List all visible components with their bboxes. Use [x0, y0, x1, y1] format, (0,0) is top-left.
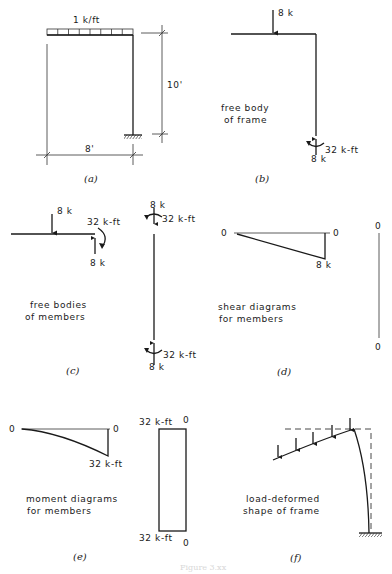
panel-d-shear-diagrams: 0 0 8 k 0 0 shear diagrams for members (… — [218, 221, 381, 377]
svg-text:32 k-ft: 32 k-ft — [139, 417, 173, 427]
column-moment-diagram — [159, 429, 186, 531]
svg-text:8 k: 8 k — [149, 362, 165, 372]
svg-text:0: 0 — [221, 228, 227, 238]
panel-c-member-free-bodies: 8 k 8 k 32 k-ft 8 k 32 k-ft 32 k-ft 8 k … — [11, 200, 197, 376]
svg-text:0: 0 — [375, 342, 381, 352]
distributed-load-icon — [47, 29, 133, 35]
svg-text:of members: of members — [25, 312, 85, 322]
fixed-support-icon — [124, 135, 142, 139]
caption-b: (b) — [255, 173, 269, 184]
svg-text:32 k-ft: 32 k-ft — [87, 217, 121, 227]
svg-text:0: 0 — [375, 221, 381, 231]
caption-c: (c) — [66, 365, 80, 376]
svg-text:32 k-ft: 32 k-ft — [162, 214, 196, 224]
svg-text:0: 0 — [183, 538, 189, 548]
height-label: 10' — [167, 80, 183, 90]
svg-text:for members: for members — [219, 314, 284, 324]
svg-text:shear diagrams: shear diagrams — [218, 302, 297, 312]
caption-a: (a) — [84, 173, 98, 184]
base-reaction-label: 8 k — [311, 154, 327, 164]
title-line-2: of frame — [224, 115, 267, 125]
panel-b-frame-free-body: 8 k 32 k-ft 8 k free body of frame (b) — [221, 8, 359, 184]
svg-text:free bodies: free bodies — [30, 300, 87, 310]
beam-shear-diagram — [237, 233, 325, 259]
svg-text:32 k-ft: 32 k-ft — [139, 533, 173, 543]
svg-text:0: 0 — [333, 228, 339, 238]
svg-text:shape of frame: shape of frame — [243, 506, 320, 516]
caption-d: (d) — [277, 366, 291, 377]
svg-text:load-deformed: load-deformed — [246, 494, 320, 504]
svg-text:8 k: 8 k — [90, 258, 106, 268]
svg-text:8 k: 8 k — [150, 200, 166, 210]
svg-text:32 k-ft: 32 k-ft — [89, 459, 123, 469]
panel-a-loaded-frame: 1 k/ft 10' 8' (a) — [36, 15, 183, 184]
caption-e: (e) — [73, 551, 87, 562]
figure-caption: Figure 3.xx — [180, 563, 227, 572]
svg-text:moment diagrams: moment diagrams — [26, 494, 118, 504]
fixed-support-icon — [359, 533, 382, 537]
structural-figure: 1 k/ft 10' 8' (a) — [0, 0, 392, 574]
height-dimension — [141, 25, 168, 143]
beam-moment-diagram — [22, 429, 108, 456]
panel-e-moment-diagrams: 0 0 32 k-ft 32 k-ft 0 32 k-ft 0 moment d… — [9, 415, 189, 562]
base-moment-label: 32 k-ft — [325, 145, 359, 155]
span-label: 8' — [85, 144, 94, 154]
svg-text:0: 0 — [9, 424, 15, 434]
svg-text:0: 0 — [183, 415, 189, 425]
svg-text:for members: for members — [27, 506, 92, 516]
top-load-label: 8 k — [278, 8, 294, 18]
panel-f-deformed-shape: load-deformed shape of frame (f) — [243, 418, 382, 563]
svg-text:8 k: 8 k — [316, 260, 332, 270]
caption-f: (f) — [290, 552, 302, 563]
svg-text:8 k: 8 k — [57, 206, 73, 216]
distributed-load-arrows-icon — [278, 418, 350, 457]
title-line-1: free body — [221, 103, 269, 113]
svg-text:32 k-ft: 32 k-ft — [163, 350, 197, 360]
load-label: 1 k/ft — [73, 15, 100, 25]
svg-text:0: 0 — [113, 424, 119, 434]
deformed-column — [354, 429, 369, 533]
